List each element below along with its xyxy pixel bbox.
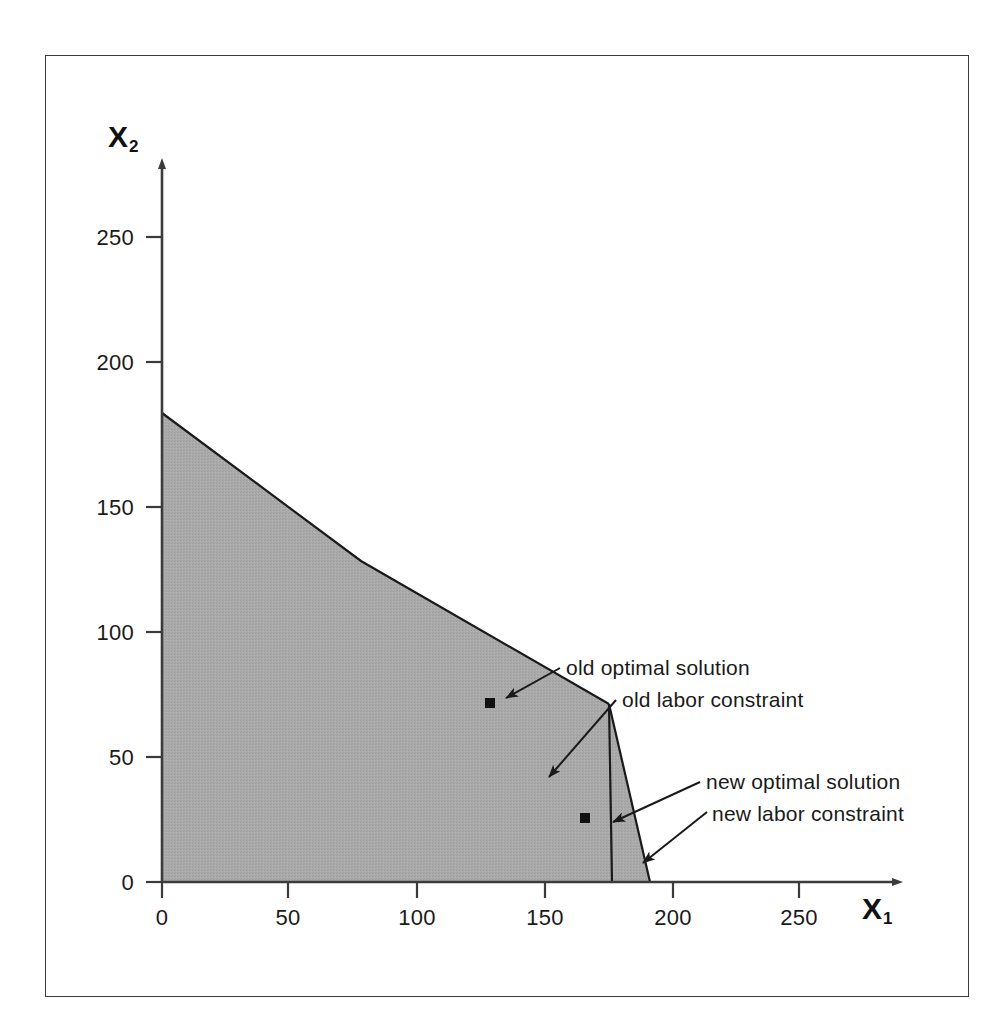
y-tick-250: 250 [72, 225, 134, 251]
x-tick-50: 50 [258, 905, 318, 931]
x-tick-250: 250 [769, 905, 829, 931]
figure-frame [45, 55, 969, 997]
y-tick-150: 150 [72, 495, 134, 521]
y-tick-50: 50 [72, 745, 134, 771]
annotation-new-optimal-solution: new optimal solution [706, 770, 900, 794]
annotation-new-labor-constraint: new labor constraint [712, 802, 904, 826]
x-axis-title-text: X [862, 892, 882, 925]
y-tick-100: 100 [72, 620, 134, 646]
x-tick-0: 0 [132, 905, 192, 931]
x-axis-title-subscript: 1 [883, 909, 892, 928]
y-tick-0: 0 [72, 870, 134, 896]
y-axis-title: X2 [108, 120, 137, 154]
x-axis-title: X1 [862, 892, 891, 926]
x-tick-100: 100 [387, 905, 447, 931]
y-axis-title-subscript: 2 [129, 137, 138, 156]
annotation-old-optimal-solution: old optimal solution [566, 656, 750, 680]
x-tick-200: 200 [643, 905, 703, 931]
y-axis-title-text: X [108, 120, 128, 153]
x-tick-150: 150 [515, 905, 575, 931]
y-tick-200: 200 [72, 350, 134, 376]
annotation-old-labor-constraint: old labor constraint [622, 688, 803, 712]
